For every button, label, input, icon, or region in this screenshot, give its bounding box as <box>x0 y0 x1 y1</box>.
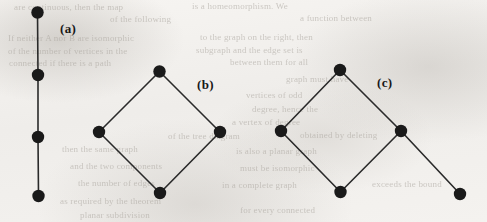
graph-edge <box>341 131 402 192</box>
graph-c-edges <box>281 70 460 194</box>
graph-vertex <box>153 65 165 77</box>
graph-edges-layer <box>38 13 461 197</box>
graph-vertex <box>32 69 44 81</box>
graph-a-edges <box>38 13 39 197</box>
graph-vertex <box>93 126 105 138</box>
figure-label-c: (c) <box>377 75 392 91</box>
graph-edge <box>160 132 220 193</box>
graph-vertex <box>395 125 407 137</box>
graph-vertex <box>154 187 166 199</box>
figure-label-b: (b) <box>197 77 214 93</box>
graph-vertex <box>275 125 287 137</box>
graph-edge <box>281 70 340 131</box>
figure-label-a: (a) <box>60 21 76 37</box>
graph-vertex <box>334 64 346 76</box>
graph-edge <box>38 13 39 76</box>
graph-edge <box>99 132 160 193</box>
graph-vertices-layer <box>31 6 466 202</box>
graph-edge <box>99 72 160 133</box>
graph-vertex <box>31 6 43 18</box>
graph-vertex <box>214 126 226 138</box>
figure-page: are continuous, then the mapis a homeomo… <box>0 0 487 222</box>
graph-c-vertices <box>275 64 466 200</box>
graph-edge <box>401 131 460 194</box>
graph-vertex <box>32 190 44 202</box>
graph-vertex <box>334 186 346 198</box>
graph-edge <box>38 137 39 196</box>
graph-vertex <box>32 131 44 143</box>
graph-vertex <box>454 188 466 200</box>
graph-edge <box>281 131 341 192</box>
